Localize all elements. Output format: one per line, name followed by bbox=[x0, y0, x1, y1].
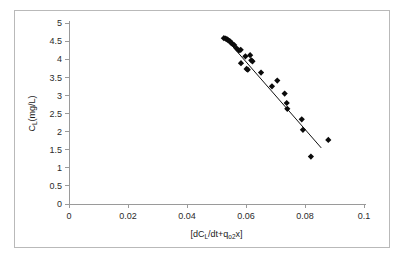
trendline bbox=[225, 37, 321, 147]
data-point bbox=[247, 52, 253, 58]
y-tick-label: 5 bbox=[57, 18, 62, 28]
data-point bbox=[300, 127, 306, 133]
y-tick-label: 3.5 bbox=[49, 73, 62, 83]
y-tick-label: 0.5 bbox=[49, 181, 62, 191]
x-tick-label: 0.02 bbox=[119, 211, 137, 221]
x-tick-label: 0.06 bbox=[237, 211, 255, 221]
data-point bbox=[308, 153, 314, 159]
y-tick-label: 4.5 bbox=[49, 36, 62, 46]
y-tick-label: 4 bbox=[57, 54, 62, 64]
y-axis-ticks: 00.511.522.533.544.55 bbox=[49, 18, 69, 209]
y-tick-label: 2 bbox=[57, 127, 62, 137]
data-point bbox=[325, 137, 331, 143]
y-tick-label: 2.5 bbox=[49, 109, 62, 119]
y-tick-label: 0 bbox=[57, 199, 62, 209]
data-point bbox=[274, 77, 280, 83]
x-tick-label: 0 bbox=[66, 211, 71, 221]
data-point bbox=[282, 90, 288, 96]
data-point bbox=[299, 116, 305, 122]
x-axis-title: [dCL/dt+qo2x] bbox=[190, 229, 242, 240]
y-tick-label: 3 bbox=[57, 91, 62, 101]
x-tick-label: 0.04 bbox=[178, 211, 196, 221]
x-tick-label: 0.08 bbox=[296, 211, 314, 221]
chart-figure: 00.511.522.533.544.55 00.020.040.060.080… bbox=[14, 10, 390, 248]
data-point bbox=[238, 60, 244, 66]
y-tick-label: 1.5 bbox=[49, 145, 62, 155]
scatter-plot: 00.511.522.533.544.55 00.020.040.060.080… bbox=[15, 11, 389, 247]
y-tick-label: 1 bbox=[57, 163, 62, 173]
x-tick-label: 0.1 bbox=[358, 211, 371, 221]
data-point bbox=[258, 69, 264, 75]
y-axis-title: CL(mg/L) bbox=[27, 95, 38, 131]
x-axis-ticks: 00.020.040.060.080.1 bbox=[66, 204, 370, 221]
